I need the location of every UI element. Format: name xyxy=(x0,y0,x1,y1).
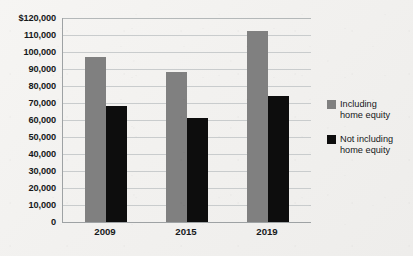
y-axis-tick-label: 0 xyxy=(51,217,56,227)
y-axis-tick-label: 20,000 xyxy=(28,183,56,193)
bar-2009-series1 xyxy=(85,57,106,222)
y-axis-tick-label: 100,000 xyxy=(23,47,56,57)
y-axis-tick-label: 30,000 xyxy=(28,166,56,176)
chart-legend: Including home equityNot including home … xyxy=(327,99,413,169)
y-axis-tick-label: 60,000 xyxy=(28,115,56,125)
legend-item-label: Not including home equity xyxy=(340,134,393,155)
legend-swatch-icon xyxy=(327,135,336,144)
y-axis-tick-label: 90,000 xyxy=(28,64,56,74)
legend-item: Not including home equity xyxy=(327,134,413,155)
y-axis-tick-label: $120,000 xyxy=(18,13,56,23)
y-axis-tick-label: 10,000 xyxy=(28,200,56,210)
bar-2019-series2 xyxy=(268,96,289,222)
y-axis-tick-label: 70,000 xyxy=(28,98,56,108)
bar-chart-figure: $120,000110,000100,00090,00080,00070,000… xyxy=(0,0,413,256)
y-axis-tick-label: 110,000 xyxy=(24,30,56,40)
x-axis-tick-label: 2015 xyxy=(175,226,196,237)
bar-2019-series1 xyxy=(247,31,268,222)
x-axis-tick-label: 2019 xyxy=(256,226,277,237)
legend-item: Including home equity xyxy=(327,99,413,120)
bar-2015-series2 xyxy=(187,118,208,222)
x-axis-tick-label: 2009 xyxy=(94,226,115,237)
y-axis-tick-label: 80,000 xyxy=(28,81,56,91)
plot-area xyxy=(62,18,311,223)
bars-layer xyxy=(63,18,311,222)
x-axis: 200920152019 xyxy=(62,226,310,244)
y-axis-tick-label: 50,000 xyxy=(28,132,56,142)
y-axis-tick-label: 40,000 xyxy=(28,149,56,159)
legend-swatch-icon xyxy=(327,100,336,109)
bar-2009-series2 xyxy=(106,106,127,222)
bar-2015-series1 xyxy=(166,72,187,222)
y-axis: $120,000110,000100,00090,00080,00070,000… xyxy=(0,18,62,222)
legend-item-label: Including home equity xyxy=(340,99,390,120)
